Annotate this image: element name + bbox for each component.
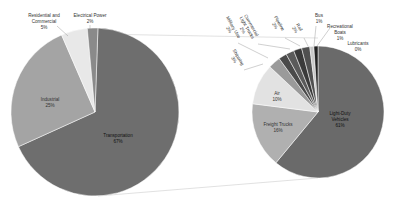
label-electrical-pct: 2% <box>87 19 94 24</box>
label-freight-pct: 16% <box>273 128 282 133</box>
label-air-pct: 10% <box>272 97 281 102</box>
label-residential-pct: 5% <box>41 25 48 30</box>
primary-pie <box>11 28 179 196</box>
leader-pipeline <box>285 38 300 46</box>
leader-clt <box>258 44 290 49</box>
label-ldv-1: Light-Duty <box>330 111 352 116</box>
label-boats-1: Recreational <box>327 24 353 29</box>
label-rail: Rail 2% <box>291 23 304 35</box>
label-ldv-2: Vehicles <box>331 117 349 122</box>
pie-of-pie-chart: Transportation 67% Industrial 25% Reside… <box>0 0 399 210</box>
label-clt: Commercial Light Trucks 2% <box>234 13 260 43</box>
label-ldv-pct: 61% <box>335 123 344 128</box>
leader-rail <box>304 38 308 46</box>
leader-bus <box>314 26 316 46</box>
label-boats-pct: 1% <box>337 36 344 41</box>
label-residential-2: Commercial <box>32 19 57 24</box>
label-air: Air <box>274 91 280 96</box>
label-pipeline: Pipeline 2% <box>269 15 286 35</box>
leader-shipping <box>244 64 263 70</box>
label-shipping: Shipping 3% <box>227 48 245 69</box>
secondary-pie <box>252 46 384 178</box>
label-bus-pct: 1% <box>316 19 323 24</box>
label-residential-1: Residential and <box>28 13 60 18</box>
label-boats-2: Boats <box>334 30 346 35</box>
leader-military <box>238 43 268 58</box>
label-transportation: Transportation <box>103 133 133 138</box>
leader-boats <box>317 28 330 46</box>
label-bus: Bus <box>315 13 324 18</box>
label-military: Military Use 2% <box>221 16 242 42</box>
label-freight: Freight Trucks <box>263 122 293 127</box>
label-electrical: Electrical Power <box>74 13 107 18</box>
label-lubricants: Lubricants <box>347 41 369 46</box>
label-transportation-pct: 67% <box>113 139 122 144</box>
label-industrial: Industrial <box>41 97 60 102</box>
label-industrial-pct: 25% <box>45 103 54 108</box>
label-lubricants-pct: 0% <box>355 47 362 52</box>
